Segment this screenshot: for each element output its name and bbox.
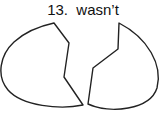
- broken-shape-figure: [0, 0, 166, 128]
- left-half-shape: [1, 23, 83, 107]
- right-half-shape: [88, 23, 158, 109]
